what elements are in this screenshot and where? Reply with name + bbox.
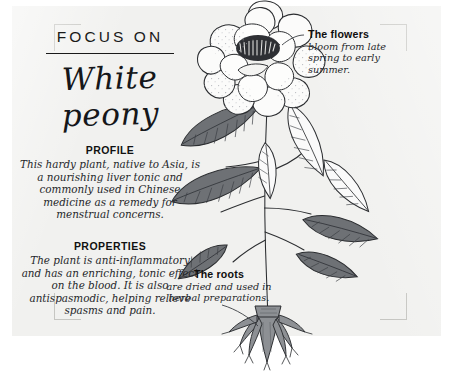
profile-block: PROFILE This hardy plant, native to Asia… — [12, 144, 208, 221]
annotation-roots-title: The roots — [166, 268, 272, 280]
profile-body: This hardy plant, native to Asia, is a n… — [12, 158, 208, 221]
annotation-roots: The roots are dried and used in herbal p… — [166, 268, 272, 304]
profile-heading: PROFILE — [12, 144, 208, 156]
annotation-roots-body: are dried and used in herbal preparation… — [166, 281, 272, 304]
page-title: White peony — [11, 58, 209, 135]
properties-heading: PROPERTIES — [12, 240, 208, 252]
annotation-flowers: The flowers bloom from late spring to ea… — [308, 28, 420, 75]
annotation-flowers-title: The flowers — [308, 28, 420, 40]
annotation-flowers-body: bloom from late spring to early summer. — [308, 41, 420, 75]
title-rule — [46, 53, 174, 54]
eyebrow-focus-on: FOCUS ON — [57, 28, 164, 53]
corner-bracket-bottom-right — [380, 293, 407, 320]
